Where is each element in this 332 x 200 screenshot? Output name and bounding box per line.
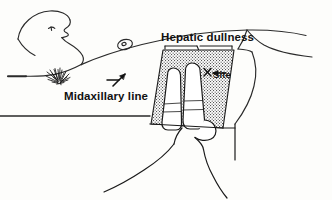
- illustration-canvas: [0, 0, 332, 200]
- patient-head: [18, 11, 83, 65]
- midaxillary-line-label: Midaxillary line: [64, 91, 148, 103]
- nipple-areola-mark: [117, 38, 134, 51]
- medical-illustration-figure: Hepatic dullness Midaxillary line Site: [0, 0, 332, 200]
- hepatic-dullness-leader: [165, 46, 232, 50]
- midaxillary-pointer-icon: [107, 74, 125, 86]
- site-label: Site: [213, 70, 231, 80]
- axillary-hair-tuft: [46, 68, 70, 85]
- hepatic-dullness-label: Hepatic dullness: [161, 32, 254, 44]
